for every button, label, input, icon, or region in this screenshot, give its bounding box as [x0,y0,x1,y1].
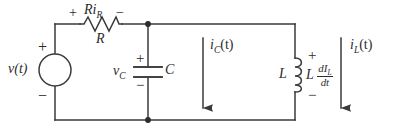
circuit-schematic-svg [0,0,393,134]
circuit-diagram: + v(t) − + RiR − R vC + − C iC(t) L + L … [0,0,393,134]
resistor-plus-sign: + [69,6,77,20]
resistor-voltage-label: RiR [84,3,102,20]
inductor-value-label: L [279,67,287,81]
resistor-minus-sign: − [116,6,124,20]
capacitor-value-label: C [165,63,174,77]
inductor-derivative-fraction: dILdt [317,63,332,89]
capacitor-minus-sign: − [136,78,144,93]
junction-dot-top [145,21,151,27]
voltage-source-symbol [39,54,71,86]
source-minus-sign: − [38,88,47,104]
resistor-value-label: R [96,32,105,46]
inductor-voltage-label: L dILdt [306,63,333,89]
inductor-plus-sign: + [308,48,316,63]
inductor-current-label: iL(t) [350,38,372,55]
capacitor-plus-sign: + [136,51,144,66]
source-plus-sign: + [38,39,47,55]
junction-dot-bottom [145,117,151,123]
capacitor-current-label: iC(t) [210,38,233,55]
capacitor-voltage-label: vC [113,64,126,81]
inductor-minus-sign: − [308,88,316,103]
source-label: v(t) [8,62,27,76]
inductor-symbol [295,58,301,92]
